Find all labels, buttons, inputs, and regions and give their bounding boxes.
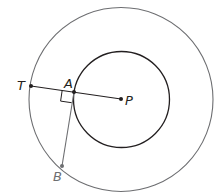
label-b: B: [53, 169, 62, 184]
label-t: T: [17, 78, 26, 93]
point-p: [119, 97, 123, 101]
point-t: [29, 84, 33, 88]
segment-tp: [31, 86, 121, 99]
diagram-canvas: T A P B: [0, 0, 223, 196]
label-p: P: [125, 93, 133, 108]
concentric-circles-diagram: T A P B: [0, 0, 223, 196]
label-a: A: [63, 76, 73, 91]
segment-ab: [62, 92, 74, 166]
point-b: [60, 164, 64, 168]
